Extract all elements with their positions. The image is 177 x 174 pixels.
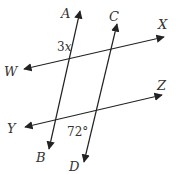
label-y: Y: [7, 121, 17, 136]
angle-variable: x: [65, 40, 72, 54]
line-cd: [84, 24, 117, 162]
line-wx: [24, 37, 164, 69]
label-b: B: [35, 150, 46, 165]
angle-label-3x: 3x: [57, 40, 72, 54]
label-d: D: [68, 159, 80, 174]
angle-coefficient: 3: [57, 40, 65, 54]
label-a: A: [60, 6, 70, 21]
label-x: X: [157, 17, 168, 32]
label-z: Z: [156, 78, 167, 93]
label-c: C: [109, 9, 119, 24]
label-w: W: [4, 64, 19, 79]
angle-label-72: 72°: [67, 125, 88, 139]
geometry-diagram: A C X W Z Y B D 3x 72°: [0, 0, 177, 174]
